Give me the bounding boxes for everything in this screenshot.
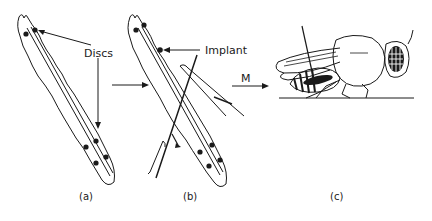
disc <box>93 160 98 165</box>
disc <box>209 142 214 147</box>
disc <box>206 163 211 168</box>
caption-a: (a) <box>79 191 93 202</box>
implant-label: Implant <box>205 44 248 57</box>
disc <box>197 149 202 154</box>
implant-disc <box>157 47 163 53</box>
disc <box>103 154 108 159</box>
disc <box>133 27 138 32</box>
forceps <box>180 65 244 116</box>
diagram: Discs Implant M <box>0 0 432 221</box>
disc <box>83 144 88 149</box>
discs-annotation <box>38 30 101 129</box>
arrow-b-to-c <box>232 83 269 89</box>
disc <box>32 27 37 32</box>
panel-c-fly <box>276 26 414 98</box>
disc <box>93 138 98 143</box>
caption-c: (c) <box>330 191 343 202</box>
disc <box>217 157 222 162</box>
arrow-label-m: M <box>241 72 251 85</box>
disc <box>23 31 28 36</box>
disc <box>141 22 146 27</box>
panel-a-larva <box>18 15 115 185</box>
caption-b: (b) <box>183 191 197 202</box>
implant-annotation <box>163 47 200 53</box>
arrow-a-to-b <box>112 82 149 88</box>
discs-label: Discs <box>84 47 113 60</box>
